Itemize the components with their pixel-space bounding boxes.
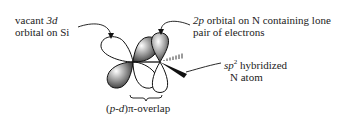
label-text-italic: 2p (193, 14, 204, 26)
label-text-italic: 3d (46, 14, 57, 26)
p-lobe-upper (151, 33, 168, 62)
label-si-orbital: vacant 3d orbital on Si (15, 14, 69, 38)
label-text: vacant (15, 14, 46, 26)
label-overlap: (p-d)π-overlap (106, 102, 170, 114)
overlap-brace (130, 95, 162, 101)
hashed-bond (164, 54, 182, 62)
arrow-si-orbital (78, 24, 111, 35)
p-lobe-lower (152, 62, 167, 93)
label-n-orbital: 2p orbital on N containing lone pair of … (193, 14, 331, 38)
label-text: orbital on N containing lone (204, 14, 331, 26)
label-n-atom: sp2 hybridized N atom (224, 56, 287, 83)
arrow-n-orbital (161, 21, 190, 30)
label-text: hybridized (237, 59, 287, 71)
label-text: N atom (224, 71, 287, 83)
arrow-n-atom (186, 63, 221, 72)
d-lobe-lower-left (107, 62, 133, 88)
label-text-italic: p-d (110, 102, 125, 114)
label-text: pair of electrons (193, 26, 331, 38)
label-text: orbital on Si (15, 26, 69, 38)
label-text-italic: sp (224, 59, 234, 71)
label-text: )π-overlap (124, 102, 170, 114)
d-lobe-upper-left (101, 37, 133, 62)
